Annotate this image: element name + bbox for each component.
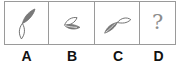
figure-cell-b [49,2,94,44]
option-label-a: A [4,48,49,64]
question-mark: ? [140,10,175,34]
option-label-b: B [49,48,95,64]
figure-sequence-grid: ? [4,1,176,45]
leaf-pair-figure-c-icon [95,2,139,44]
figure-cell-c [95,2,140,44]
figure-cell-a [5,2,49,44]
figure-cell-d: ? [140,2,175,44]
leaf-pair-figure-b-icon [49,2,93,44]
option-labels: A B C D [4,48,176,64]
leaf-pair-figure-a-icon [5,2,48,44]
option-label-c: C [95,48,141,64]
option-label-d: D [141,48,176,64]
